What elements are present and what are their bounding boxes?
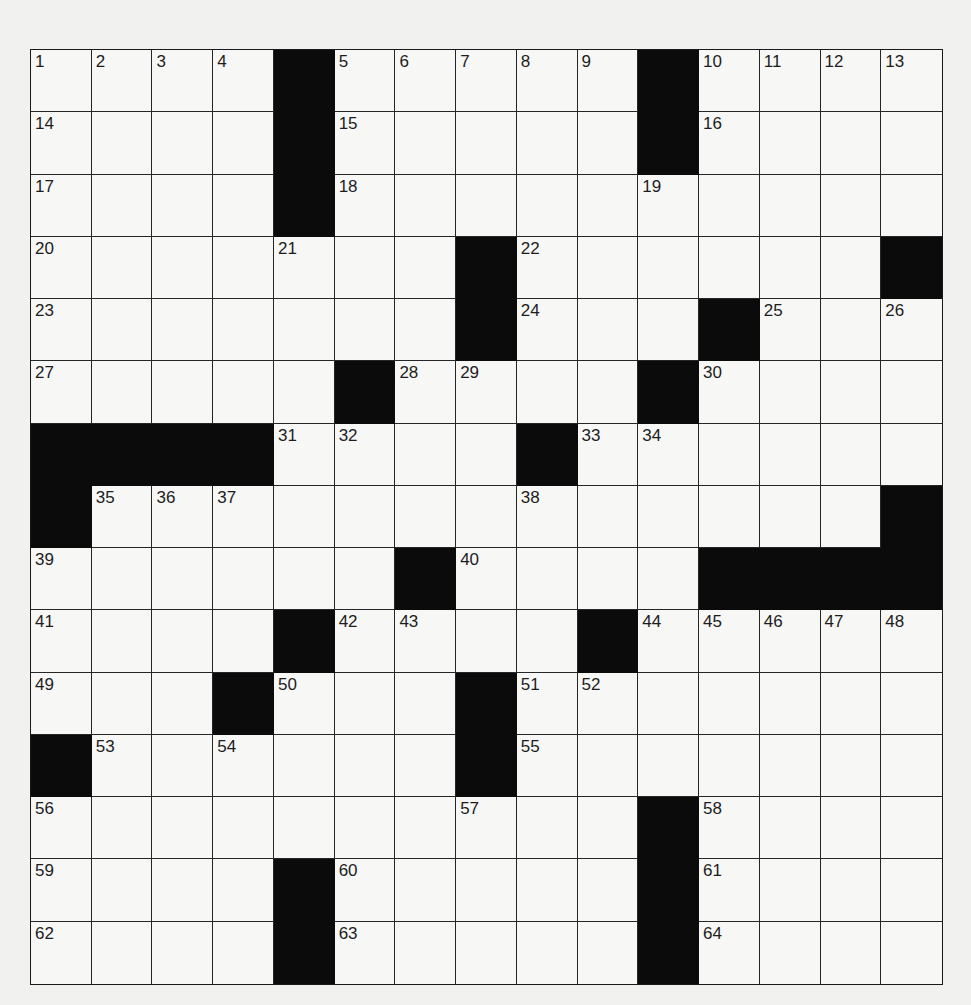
answer-cell[interactable] (638, 548, 699, 610)
answer-cell[interactable] (638, 673, 699, 735)
answer-cell[interactable] (213, 859, 274, 921)
answer-cell[interactable] (699, 735, 760, 797)
answer-cell[interactable]: 52 (578, 673, 639, 735)
answer-cell[interactable] (395, 112, 456, 174)
answer-cell[interactable] (152, 859, 213, 921)
answer-cell[interactable] (881, 361, 942, 423)
answer-cell[interactable] (760, 735, 821, 797)
answer-cell[interactable] (578, 486, 639, 548)
answer-cell[interactable] (578, 735, 639, 797)
answer-cell[interactable] (152, 361, 213, 423)
answer-cell[interactable] (395, 797, 456, 859)
answer-cell[interactable] (821, 175, 882, 237)
answer-cell[interactable] (274, 361, 335, 423)
answer-cell[interactable] (456, 922, 517, 984)
answer-cell[interactable] (152, 922, 213, 984)
answer-cell[interactable] (699, 424, 760, 486)
answer-cell[interactable] (881, 175, 942, 237)
answer-cell[interactable]: 35 (92, 486, 153, 548)
answer-cell[interactable] (456, 486, 517, 548)
answer-cell[interactable]: 21 (274, 237, 335, 299)
answer-cell[interactable] (335, 299, 396, 361)
answer-cell[interactable] (456, 175, 517, 237)
answer-cell[interactable]: 58 (699, 797, 760, 859)
answer-cell[interactable] (578, 859, 639, 921)
answer-cell[interactable] (821, 424, 882, 486)
answer-cell[interactable] (213, 548, 274, 610)
answer-cell[interactable] (335, 797, 396, 859)
answer-cell[interactable]: 36 (152, 486, 213, 548)
answer-cell[interactable] (760, 237, 821, 299)
answer-cell[interactable] (760, 922, 821, 984)
answer-cell[interactable] (274, 299, 335, 361)
answer-cell[interactable] (92, 175, 153, 237)
answer-cell[interactable] (213, 797, 274, 859)
answer-cell[interactable]: 41 (31, 610, 92, 672)
answer-cell[interactable] (760, 361, 821, 423)
answer-cell[interactable]: 29 (456, 361, 517, 423)
answer-cell[interactable]: 33 (578, 424, 639, 486)
answer-cell[interactable] (578, 797, 639, 859)
answer-cell[interactable] (821, 299, 882, 361)
answer-cell[interactable] (821, 735, 882, 797)
answer-cell[interactable] (699, 486, 760, 548)
answer-cell[interactable]: 15 (335, 112, 396, 174)
answer-cell[interactable] (92, 299, 153, 361)
answer-cell[interactable] (881, 735, 942, 797)
answer-cell[interactable] (638, 735, 699, 797)
answer-cell[interactable]: 6 (395, 50, 456, 112)
answer-cell[interactable]: 11 (760, 50, 821, 112)
answer-cell[interactable] (821, 922, 882, 984)
answer-cell[interactable]: 51 (517, 673, 578, 735)
answer-cell[interactable]: 42 (335, 610, 396, 672)
answer-cell[interactable] (92, 610, 153, 672)
answer-cell[interactable]: 3 (152, 50, 213, 112)
answer-cell[interactable] (821, 859, 882, 921)
answer-cell[interactable]: 14 (31, 112, 92, 174)
answer-cell[interactable]: 45 (699, 610, 760, 672)
answer-cell[interactable] (517, 859, 578, 921)
answer-cell[interactable]: 25 (760, 299, 821, 361)
answer-cell[interactable]: 13 (881, 50, 942, 112)
answer-cell[interactable] (578, 361, 639, 423)
answer-cell[interactable]: 5 (335, 50, 396, 112)
answer-cell[interactable] (881, 859, 942, 921)
answer-cell[interactable] (274, 548, 335, 610)
answer-cell[interactable] (881, 112, 942, 174)
answer-cell[interactable] (152, 112, 213, 174)
answer-cell[interactable] (517, 922, 578, 984)
answer-cell[interactable] (517, 175, 578, 237)
answer-cell[interactable] (395, 175, 456, 237)
answer-cell[interactable]: 20 (31, 237, 92, 299)
answer-cell[interactable]: 27 (31, 361, 92, 423)
answer-cell[interactable] (152, 610, 213, 672)
answer-cell[interactable] (395, 735, 456, 797)
answer-cell[interactable]: 57 (456, 797, 517, 859)
answer-cell[interactable]: 61 (699, 859, 760, 921)
answer-cell[interactable] (152, 237, 213, 299)
answer-cell[interactable] (760, 673, 821, 735)
answer-cell[interactable] (881, 797, 942, 859)
answer-cell[interactable]: 31 (274, 424, 335, 486)
answer-cell[interactable] (92, 112, 153, 174)
answer-cell[interactable]: 64 (699, 922, 760, 984)
answer-cell[interactable] (699, 237, 760, 299)
answer-cell[interactable] (821, 673, 882, 735)
answer-cell[interactable]: 54 (213, 735, 274, 797)
answer-cell[interactable] (274, 797, 335, 859)
answer-cell[interactable] (821, 797, 882, 859)
answer-cell[interactable]: 44 (638, 610, 699, 672)
answer-cell[interactable]: 37 (213, 486, 274, 548)
answer-cell[interactable]: 19 (638, 175, 699, 237)
answer-cell[interactable] (821, 112, 882, 174)
answer-cell[interactable] (152, 548, 213, 610)
answer-cell[interactable] (152, 735, 213, 797)
answer-cell[interactable]: 2 (92, 50, 153, 112)
answer-cell[interactable]: 17 (31, 175, 92, 237)
answer-cell[interactable]: 1 (31, 50, 92, 112)
answer-cell[interactable]: 49 (31, 673, 92, 735)
answer-cell[interactable]: 55 (517, 735, 578, 797)
answer-cell[interactable]: 46 (760, 610, 821, 672)
answer-cell[interactable]: 30 (699, 361, 760, 423)
answer-cell[interactable]: 26 (881, 299, 942, 361)
